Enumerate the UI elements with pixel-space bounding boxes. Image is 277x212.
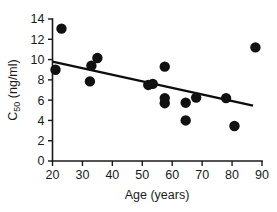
data-points-group bbox=[50, 23, 260, 131]
data-point bbox=[180, 115, 190, 125]
x-tick-label: 40 bbox=[105, 168, 119, 182]
data-point bbox=[160, 93, 170, 103]
y-tick-label: 2 bbox=[38, 134, 45, 148]
data-point bbox=[56, 23, 66, 33]
y-tick-label: 4 bbox=[38, 114, 45, 128]
data-point bbox=[191, 92, 201, 102]
y-tick-label: 10 bbox=[31, 53, 45, 67]
data-point bbox=[92, 53, 102, 63]
data-point bbox=[50, 65, 60, 75]
x-tick-label: 60 bbox=[165, 168, 179, 182]
x-tick-label: 30 bbox=[75, 168, 89, 182]
data-point bbox=[148, 79, 158, 89]
x-tick-label: 20 bbox=[46, 168, 60, 182]
plot-canvas: 02468101214 2030405060708090 Age (years)… bbox=[0, 0, 277, 212]
svg-text:C50 (ng/ml): C50 (ng/ml) bbox=[6, 59, 22, 120]
data-point bbox=[180, 97, 190, 107]
x-tick-label: 70 bbox=[195, 168, 209, 182]
y-tick-label: 14 bbox=[31, 12, 45, 26]
y-axis-title-subscript: 50 bbox=[12, 102, 22, 112]
x-tick-label: 80 bbox=[225, 168, 239, 182]
y-axis-tick-labels: 02468101214 bbox=[31, 12, 45, 168]
x-axis-tick-labels: 2030405060708090 bbox=[46, 168, 269, 182]
y-tick-label: 12 bbox=[31, 33, 45, 47]
data-point bbox=[85, 76, 95, 86]
scatter-plot-figure: 02468101214 2030405060708090 Age (years)… bbox=[0, 0, 277, 212]
y-tick-label: 6 bbox=[38, 94, 45, 108]
data-point bbox=[221, 93, 231, 103]
y-tick-label: 0 bbox=[38, 154, 45, 168]
y-tick-label: 8 bbox=[38, 73, 45, 87]
data-point bbox=[250, 42, 260, 52]
x-tick-label: 50 bbox=[135, 168, 149, 182]
y-axis-title-main: C bbox=[6, 112, 20, 121]
y-axis-title-units: (ng/ml) bbox=[6, 59, 20, 101]
x-tick-label: 90 bbox=[255, 168, 269, 182]
x-axis-title: Age (years) bbox=[125, 188, 190, 202]
data-point bbox=[229, 121, 239, 131]
y-axis-title: C50 (ng/ml) bbox=[6, 59, 22, 120]
data-point bbox=[160, 61, 170, 71]
